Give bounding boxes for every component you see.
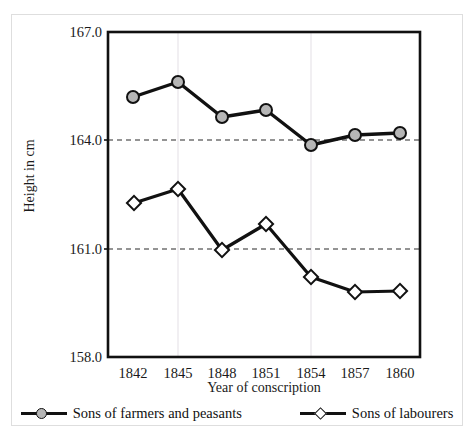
legend-entry-labourers: Sons of labourers <box>300 405 454 422</box>
legend-label-labourers: Sons of labourers <box>352 405 454 422</box>
y-axis-title: Height in cm <box>22 106 38 246</box>
legend-label-farmers: Sons of farmers and peasants <box>73 405 242 422</box>
x-axis-tick-labels: 1842 1845 1848 1851 1854 1857 1860 <box>0 0 473 437</box>
x-axis-title: Year of conscription <box>108 380 420 396</box>
x-tick-1860: 1860 <box>370 366 430 381</box>
chart-legend: Sons of farmers and peasants Sons of lab… <box>11 400 463 426</box>
diamond-marker-icon <box>300 406 346 420</box>
circle-marker-icon <box>21 406 67 420</box>
legend-entry-farmers: Sons of farmers and peasants <box>21 405 242 422</box>
